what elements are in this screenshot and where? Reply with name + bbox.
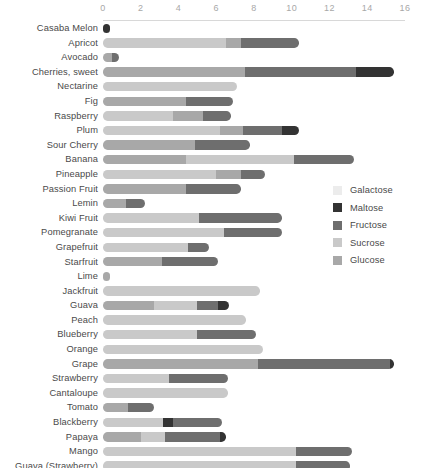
bar-segment-sucrose — [103, 374, 169, 383]
x-axis-tick-label: 6 — [214, 3, 219, 13]
stacked-bar — [103, 301, 229, 310]
bar-segment-fructose — [197, 330, 256, 339]
bar-segment-glucose — [103, 199, 126, 208]
bar-segment-sucrose — [103, 447, 296, 456]
bar-segment-glucose — [220, 126, 243, 135]
stacked-bar — [103, 170, 265, 179]
category-label: Tomato — [2, 400, 98, 415]
bar-segment-sucrose — [154, 301, 197, 310]
category-label: Kiwi Fruit — [2, 211, 98, 226]
x-axis-tick-label: 16 — [400, 3, 411, 13]
bar-segment-sucrose — [141, 432, 166, 441]
category-label: Papaya — [2, 430, 98, 445]
stacked-bar — [103, 67, 394, 76]
stacked-bar — [103, 286, 260, 295]
legend-item[interactable]: Galactose — [333, 185, 393, 195]
bar-segment-sucrose — [103, 330, 197, 339]
chart-row: Sour Cherry — [0, 138, 425, 153]
bar-segment-sucrose — [103, 243, 188, 252]
legend-item[interactable]: Glucose — [333, 255, 393, 265]
bar-segment-maltose — [103, 24, 110, 33]
bar-segment-fructose — [224, 228, 283, 237]
stacked-bar — [103, 155, 354, 164]
legend-item[interactable]: Maltose — [333, 203, 393, 213]
bar-segment-fructose — [186, 184, 241, 193]
x-axis-tick-label: 12 — [324, 3, 335, 13]
bar-segment-glucose — [103, 155, 186, 164]
bar-segment-glucose — [103, 140, 195, 149]
bar-segment-fructose — [188, 243, 209, 252]
bar-segment-glucose — [226, 38, 241, 47]
x-axis: 0246810121416 — [0, 0, 425, 22]
category-label: Guava — [2, 298, 98, 313]
category-label: Peach — [2, 313, 98, 328]
stacked-bar — [103, 97, 233, 106]
stacked-bar — [103, 184, 241, 193]
chart-row: Blueberry — [0, 327, 425, 342]
stacked-bar — [103, 359, 394, 368]
category-label: Jackfruit — [2, 284, 98, 299]
stacked-bar — [103, 418, 222, 427]
chart-row: Nectarine — [0, 79, 425, 94]
stacked-bar — [103, 345, 263, 354]
bar-segment-sucrose — [103, 461, 296, 468]
legend-label: Galactose — [350, 185, 393, 195]
legend-item[interactable]: Fructose — [333, 220, 393, 230]
category-label: Fig — [2, 94, 98, 109]
bar-segment-fructose — [245, 67, 356, 76]
category-label: Grape — [2, 357, 98, 372]
bar-segment-maltose — [356, 67, 394, 76]
category-label: Sour Cherry — [2, 138, 98, 153]
stacked-bar — [103, 199, 145, 208]
bar-segment-fructose — [186, 97, 233, 106]
legend-swatch-icon — [333, 221, 342, 230]
legend-swatch-icon — [333, 256, 342, 265]
category-label: Passion Fruit — [2, 182, 98, 197]
stacked-bar — [103, 228, 282, 237]
stacked-bar — [103, 111, 231, 120]
bar-segment-fructose — [296, 447, 353, 456]
stacked-bar — [103, 315, 246, 324]
category-label: Lemin — [2, 196, 98, 211]
bar-segment-maltose — [390, 359, 394, 368]
bar-segment-sucrose — [186, 155, 294, 164]
bar-segment-sucrose — [103, 38, 226, 47]
stacked-bar — [103, 257, 218, 266]
stacked-bar — [103, 447, 352, 456]
chart-row: Avocado — [0, 50, 425, 65]
bar-segment-sucrose — [103, 345, 263, 354]
legend-label: Maltose — [350, 203, 383, 213]
bar-segment-glucose — [103, 301, 154, 310]
category-label: Apricot — [2, 36, 98, 51]
bar-segment-fructose — [296, 461, 351, 468]
stacked-bar — [103, 53, 119, 62]
bar-segment-fructose — [112, 53, 119, 62]
bar-segment-glucose — [103, 67, 245, 76]
legend-swatch-icon — [333, 186, 342, 195]
category-label: Banana — [2, 152, 98, 167]
chart-row: Casaba Melon — [0, 21, 425, 36]
stacked-bar — [103, 461, 350, 468]
stacked-bar — [103, 243, 209, 252]
bar-segment-glucose — [103, 53, 112, 62]
stacked-bar — [103, 403, 154, 412]
legend-item[interactable]: Sucrose — [333, 238, 393, 248]
category-label: Cherries, sweet — [2, 65, 98, 80]
chart-row: Cantaloupe — [0, 386, 425, 401]
stacked-bar — [103, 126, 299, 135]
chart-row: Fig — [0, 94, 425, 109]
category-label: Blackberry — [2, 415, 98, 430]
stacked-bar — [103, 432, 226, 441]
chart-row: Apricot — [0, 36, 425, 51]
bar-segment-fructose — [241, 38, 300, 47]
chart-row: Strawberry — [0, 371, 425, 386]
x-axis-tick-label: 8 — [251, 3, 256, 13]
bar-segment-fructose — [203, 111, 231, 120]
category-label: Nectarine — [2, 79, 98, 94]
stacked-bar — [103, 388, 228, 397]
stacked-bar — [103, 330, 256, 339]
sugar-content-stacked-bar-chart: 0246810121416 Casaba MelonApricotAvocado… — [0, 0, 425, 468]
bar-segment-glucose — [103, 403, 128, 412]
chart-row: Jackfruit — [0, 284, 425, 299]
bar-segment-fructose — [162, 257, 219, 266]
